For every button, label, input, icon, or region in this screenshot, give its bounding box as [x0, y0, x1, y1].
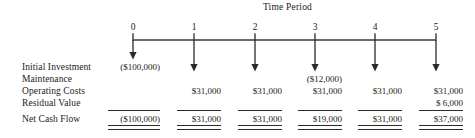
- rule-above-total-p3: [298, 110, 342, 111]
- cell-maintenance-p3: ($12,000): [272, 74, 342, 84]
- cell-net-cash-flow-p4: $31,000: [332, 114, 402, 124]
- row-label-residual-value: Residual Value: [22, 98, 80, 108]
- rule-below-total-p5: [419, 125, 463, 130]
- cell-initial-investment-p0: ($100,000): [90, 62, 160, 72]
- chart-title: Time Period: [50, 2, 475, 12]
- rule-below-total-p4: [358, 125, 402, 130]
- rule-above-total-p5-residual: [419, 110, 463, 111]
- row-label-initial-investment: Initial Investment: [22, 62, 91, 72]
- period-label-0: 0: [118, 22, 148, 32]
- period-label-3: 3: [300, 22, 330, 32]
- cell-net-cash-flow-p5: $37,000: [393, 114, 463, 124]
- period-label-2: 2: [240, 22, 270, 32]
- cell-operating-costs-p1: $31,000: [151, 86, 221, 96]
- row-label-maintenance: Maintenance: [22, 74, 72, 84]
- cell-net-cash-flow-p0: ($100,000): [90, 114, 160, 124]
- row-label-operating-costs: Operating Costs: [22, 86, 85, 96]
- cell-operating-costs-p4: $31,000: [332, 86, 402, 96]
- rule-above-total-p1: [177, 110, 221, 111]
- cell-residual-value-p5: $ 6,000: [393, 98, 463, 108]
- rule-below-total-p3: [298, 125, 342, 130]
- rule-below-total-p0: [108, 125, 160, 130]
- rule-above-total-p4: [358, 110, 402, 111]
- rule-above-total-p2: [238, 110, 282, 111]
- cell-operating-costs-p5: $31,000: [393, 86, 463, 96]
- period-label-4: 4: [360, 22, 390, 32]
- rule-above-total-p0: [108, 110, 160, 111]
- period-label-5: 5: [421, 22, 451, 32]
- rule-below-total-p2: [238, 125, 282, 130]
- rule-below-total-p1: [177, 125, 221, 130]
- period-label-1: 1: [179, 22, 209, 32]
- cell-net-cash-flow-p1: $31,000: [151, 114, 221, 124]
- cash-flow-timeline-diagram: Time Period 012345 Initial InvestmentMai…: [0, 0, 475, 138]
- row-label-net-cash-flow: Net Cash Flow: [22, 114, 80, 124]
